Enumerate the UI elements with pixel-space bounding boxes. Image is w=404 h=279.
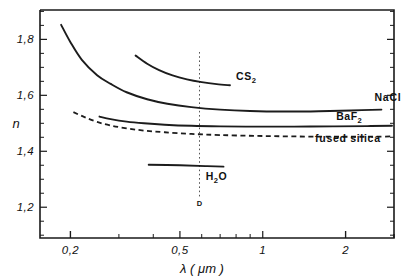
curve-nacl — [61, 25, 381, 112]
curve-cs2 — [136, 56, 230, 86]
series-curves — [61, 25, 392, 167]
y-axis-title: n — [12, 116, 19, 131]
x-axis-title: λ ( μm ) — [179, 261, 224, 276]
x-tick-label: 2 — [341, 244, 349, 256]
x-axis-tick-labels: 0,20,512 — [62, 244, 349, 256]
series-label-cs2: CS2 — [236, 70, 256, 85]
x-tick-label: 0,2 — [62, 244, 79, 256]
x-tick-label: 0,5 — [171, 244, 188, 256]
refractive-index-dispersion-figure: 0,20,512 1,21,41,61,8 D NaClCS2BaF2fused… — [0, 0, 404, 279]
series-label-baf2: BaF2 — [336, 110, 362, 125]
y-tick-label: 1,2 — [17, 201, 34, 213]
y-tick-label: 1,8 — [17, 33, 34, 45]
curve-h2o — [149, 165, 224, 167]
y-axis-ticks — [40, 11, 394, 235]
y-tick-label: 1,4 — [17, 145, 34, 157]
y-tick-label: 1,6 — [17, 89, 34, 101]
x-tick-label: 1 — [259, 244, 266, 256]
series-label-nacl: NaCl — [375, 91, 402, 103]
sodium-d-line-label: D — [197, 199, 203, 208]
dispersion-chart-svg: 0,20,512 1,21,41,61,8 D NaClCS2BaF2fused… — [0, 0, 404, 279]
plot-frame — [40, 10, 394, 238]
x-axis-ticks — [70, 231, 394, 238]
series-label-fused-silica: fused silica — [315, 132, 381, 144]
annotation-group: D — [197, 52, 203, 208]
series-label-h2o: H2O — [206, 170, 228, 185]
